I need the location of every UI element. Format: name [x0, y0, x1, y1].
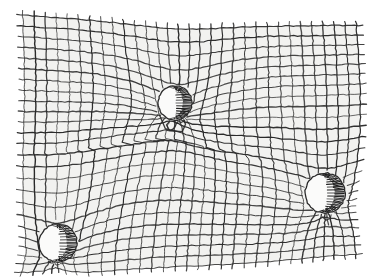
hatch-stroke — [335, 195, 345, 196]
hatch-stroke — [335, 190, 345, 191]
right-sphere — [305, 173, 346, 214]
spacetime-curvature-diagram — [0, 0, 375, 279]
upper-center-sphere — [158, 86, 193, 121]
hatch-stroke — [183, 101, 192, 102]
figure-root: Spacetime curvature grid with three mass… — [0, 0, 375, 279]
lower-left-sphere — [39, 224, 78, 263]
hatch-stroke — [67, 240, 77, 241]
